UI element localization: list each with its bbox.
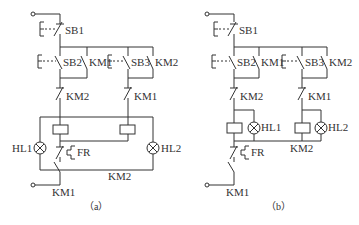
- km2-coil-icon: [120, 125, 135, 134]
- fr-overload-icon: [56, 141, 75, 162]
- diagram-b: SB1 SB2 KM1 SB3 KM2: [205, 12, 352, 212]
- label-km1-hold: KM1: [261, 56, 284, 68]
- diagram-a: SB1 SB2 KM1 SB3: [12, 12, 181, 212]
- caption-b: （b）: [266, 201, 291, 212]
- circuit-diagrams: SB1 SB2 KM1 SB3: [0, 0, 359, 225]
- terminal-top-icon: [205, 12, 209, 16]
- label-km2-bottom: KM2: [108, 170, 131, 182]
- label-fr: FR: [77, 146, 91, 158]
- label-km2-hold: KM2: [155, 56, 178, 68]
- label-km2-interlock: KM2: [66, 90, 89, 102]
- lamp-hl2-icon: [147, 142, 159, 154]
- terminal-top-icon: [31, 12, 35, 16]
- caption-a: （a）: [84, 201, 108, 212]
- label-km1-bottom: KM1: [226, 186, 249, 198]
- label-km2-interlock: KM2: [240, 90, 263, 102]
- label-sb2: SB2: [63, 56, 82, 68]
- label-km2-hold: KM2: [329, 56, 352, 68]
- label-hl2: HL2: [161, 142, 181, 154]
- km2-coil-icon: [295, 123, 310, 133]
- km1-bottom-contact-icon: [228, 162, 234, 185]
- km1-interlock-icon: [124, 78, 132, 125]
- km1-bottom-contact-icon: [54, 162, 60, 185]
- label-sb2: SB2: [237, 56, 256, 68]
- label-km1-bottom: KM1: [52, 186, 75, 198]
- label-sb1: SB1: [65, 24, 84, 36]
- terminal-bottom-icon: [205, 183, 209, 187]
- lamp-hl1-icon: [34, 142, 46, 154]
- label-sb1: SB1: [239, 24, 258, 36]
- km2-interlock-icon: [230, 78, 238, 123]
- km1-coil-icon: [227, 123, 242, 133]
- fr-overload-icon: [230, 141, 249, 162]
- label-fr: FR: [251, 146, 265, 158]
- sb2-switch-icon: [38, 47, 62, 78]
- terminal-bottom-icon: [31, 183, 35, 187]
- label-km1-interlock: KM1: [308, 90, 331, 102]
- label-km1-interlock: KM1: [134, 90, 157, 102]
- label-km1-hold: KM1: [89, 56, 112, 68]
- sb1-switch-icon: [214, 22, 238, 47]
- lamp-hl2-icon: [315, 122, 327, 134]
- label-hl2: HL2: [328, 121, 348, 133]
- km1-interlock-icon: [298, 78, 306, 123]
- km1-coil-icon: [53, 125, 68, 134]
- lamp-hl1-icon: [248, 122, 260, 134]
- label-hl1: HL1: [261, 121, 281, 133]
- sb3-switch-icon: [282, 47, 304, 78]
- sb2-switch-icon: [212, 47, 236, 78]
- sb1-switch-icon: [40, 22, 64, 47]
- km2-interlock-icon: [56, 78, 64, 125]
- label-hl1: HL1: [12, 142, 32, 154]
- label-km2-bus: KM2: [290, 142, 313, 154]
